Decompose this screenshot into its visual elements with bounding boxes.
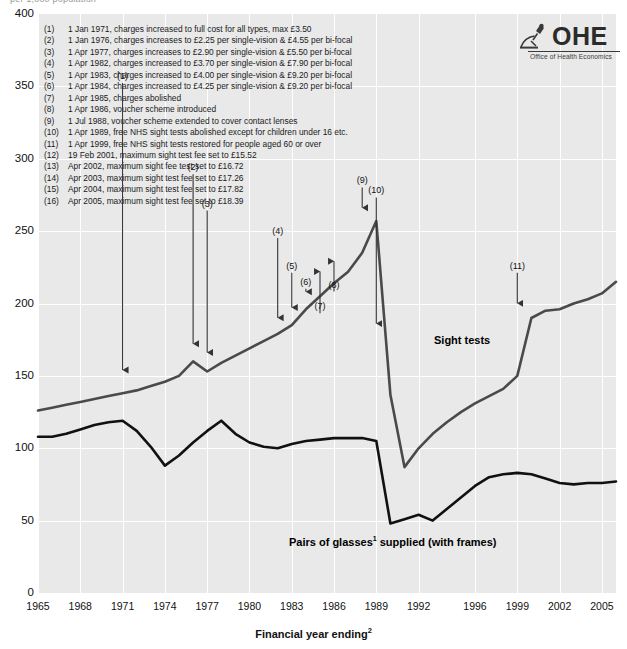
note-item: (16)Apr 2005, maximum sight test fee set… xyxy=(44,196,352,207)
gridline-horizontal xyxy=(38,376,616,377)
gridline-vertical xyxy=(517,14,518,593)
x-axis-tick-1977: 1977 xyxy=(195,600,218,612)
note-item: (3)1 Apr 1977, charges increases to £2.9… xyxy=(44,47,352,58)
x-axis-tick-1971: 1971 xyxy=(111,600,134,612)
note-number: (10) xyxy=(44,127,68,138)
note-number: (3) xyxy=(44,47,68,58)
callout-number-1: (1) xyxy=(117,71,128,81)
note-text: Apr 2002, maximum sight fee test set to … xyxy=(68,161,244,172)
note-text: 1 Apr 1983, charges increased to £4.00 p… xyxy=(68,70,352,81)
note-item: (9)1 Jul 1988, voucher scheme extended t… xyxy=(44,116,352,127)
y-axis-tick-300: 300 xyxy=(0,152,34,164)
note-item: (6)1 Apr 1984, charges increased to £4.2… xyxy=(44,81,352,92)
note-item: (1)1 Jan 1971, charges increased to full… xyxy=(44,24,352,35)
gridline-horizontal xyxy=(38,521,616,522)
x-axis-title: Financial year ending2 xyxy=(0,626,627,640)
note-text: 1 Apr 1982, charges increased to £3.70 p… xyxy=(68,58,352,69)
x-axis-tick-1974: 1974 xyxy=(153,600,176,612)
gridline-vertical xyxy=(419,14,420,593)
y-axis-tick-250: 250 xyxy=(0,224,34,236)
gridline-vertical xyxy=(376,14,377,593)
y-axis-tick-100: 100 xyxy=(0,441,34,453)
logo-subtitle: Office of Health Economics xyxy=(530,53,612,60)
note-text: Apr 2003, maximum sight test fee set to … xyxy=(68,173,244,184)
x-axis-tick-1968: 1968 xyxy=(69,600,92,612)
note-item: (11)1 Apr 1999, free NHS sight tests res… xyxy=(44,139,352,150)
top-caption: per 1,000 population xyxy=(10,0,96,4)
callout-number-9: (9) xyxy=(357,175,368,185)
x-axis-tick-1965: 1965 xyxy=(26,600,49,612)
callout-number-5: (5) xyxy=(286,261,297,271)
note-number: (16) xyxy=(44,196,68,207)
y-axis-tick-350: 350 xyxy=(0,79,34,91)
note-number: (9) xyxy=(44,116,68,127)
callout-number-2: (2) xyxy=(188,162,199,172)
x-axis-title-superscript: 2 xyxy=(368,626,372,635)
logo-wordmark: OHE xyxy=(552,24,608,49)
x-axis-tick-1986: 1986 xyxy=(322,600,345,612)
note-text: 1 Jan 1976, charges increases to £2.25 p… xyxy=(68,35,352,46)
note-text: 1 Apr 1989, free NHS sight tests abolish… xyxy=(68,127,348,138)
note-text: 1 Apr 1999, free NHS sight tests restore… xyxy=(68,139,321,150)
x-axis-tick-2005: 2005 xyxy=(590,600,613,612)
note-number: (7) xyxy=(44,93,68,104)
logo-divider xyxy=(528,51,620,52)
note-item: (5)1 Apr 1983, charges increased to £4.0… xyxy=(44,70,352,81)
note-text: Apr 2005, maximum sight test fee set to … xyxy=(68,196,244,207)
series-label-glasses-tail: supplied (with frames) xyxy=(377,536,497,548)
y-axis: 400350300250200150100500 xyxy=(0,14,34,593)
note-text: 1 Jan 1971, charges increased to full co… xyxy=(68,24,311,35)
x-axis-tick-1996: 1996 xyxy=(463,600,486,612)
note-text: 1 Apr 1986, voucher scheme introduced xyxy=(68,104,216,115)
note-item: (14)Apr 2003, maximum sight test fee set… xyxy=(44,173,352,184)
note-number: (12) xyxy=(44,150,68,161)
gridline-horizontal xyxy=(38,231,616,232)
note-item: (10)1 Apr 1989, free NHS sight tests abo… xyxy=(44,127,352,138)
note-text: Apr 2004, maximum sight test fee set to … xyxy=(68,184,244,195)
note-number: (5) xyxy=(44,70,68,81)
note-item: (4)1 Apr 1982, charges increased to £3.7… xyxy=(44,58,352,69)
callout-number-3: (3) xyxy=(202,199,213,209)
gridline-horizontal xyxy=(38,304,616,305)
series-label-glasses: Pairs of glasses1 supplied (with frames) xyxy=(289,535,496,548)
note-item: (8)1 Apr 1986, voucher scheme introduced xyxy=(44,104,352,115)
note-number: (15) xyxy=(44,184,68,195)
callout-number-4: (4) xyxy=(272,226,283,236)
note-number: (4) xyxy=(44,58,68,69)
note-number: (1) xyxy=(44,24,68,35)
y-axis-tick-400: 400 xyxy=(0,7,34,19)
series-label-sight-tests: Sight tests xyxy=(434,334,490,346)
notes-list: (1)1 Jan 1971, charges increased to full… xyxy=(44,24,352,207)
chart-root: per 1,000 population 4003503002502001501… xyxy=(0,0,627,649)
note-text: 1 Apr 1977, charges increases to £2.90 p… xyxy=(68,47,352,58)
note-number: (11) xyxy=(44,139,68,150)
series-label-glasses-main: Pairs of glasses xyxy=(289,536,373,548)
gridline-vertical xyxy=(38,14,39,593)
gridline-vertical xyxy=(602,14,603,593)
gridline-vertical xyxy=(475,14,476,593)
note-item: (15)Apr 2004, maximum sight test fee set… xyxy=(44,184,352,195)
x-axis-tick-1980: 1980 xyxy=(238,600,261,612)
note-number: (6) xyxy=(44,81,68,92)
x-axis-tick-1992: 1992 xyxy=(407,600,430,612)
note-text: 19 Feb 2001, maximum sight test fee set … xyxy=(68,150,257,161)
callout-number-11: (11) xyxy=(510,261,525,271)
x-axis-tick-2002: 2002 xyxy=(548,600,571,612)
note-text: 1 Jul 1988, voucher scheme extended to c… xyxy=(68,116,298,127)
y-axis-tick-50: 50 xyxy=(0,514,34,526)
note-item: (12)19 Feb 2001, maximum sight test fee … xyxy=(44,150,352,161)
y-axis-tick-150: 150 xyxy=(0,369,34,381)
x-axis-tick-1999: 1999 xyxy=(506,600,529,612)
gridline-horizontal xyxy=(38,448,616,449)
note-item: (7)1 Apr 1985, charges abolished xyxy=(44,93,352,104)
note-number: (2) xyxy=(44,35,68,46)
callout-number-7: (7) xyxy=(314,301,325,311)
gridline-vertical xyxy=(560,14,561,593)
callout-number-8: (8) xyxy=(329,280,340,290)
note-item: (2)1 Jan 1976, charges increases to £2.2… xyxy=(44,35,352,46)
note-text: 1 Apr 1985, charges abolished xyxy=(68,93,181,104)
note-number: (14) xyxy=(44,173,68,184)
callout-number-10: (10) xyxy=(368,185,384,195)
y-axis-tick-200: 200 xyxy=(0,297,34,309)
y-axis-tick-0: 0 xyxy=(0,586,34,598)
